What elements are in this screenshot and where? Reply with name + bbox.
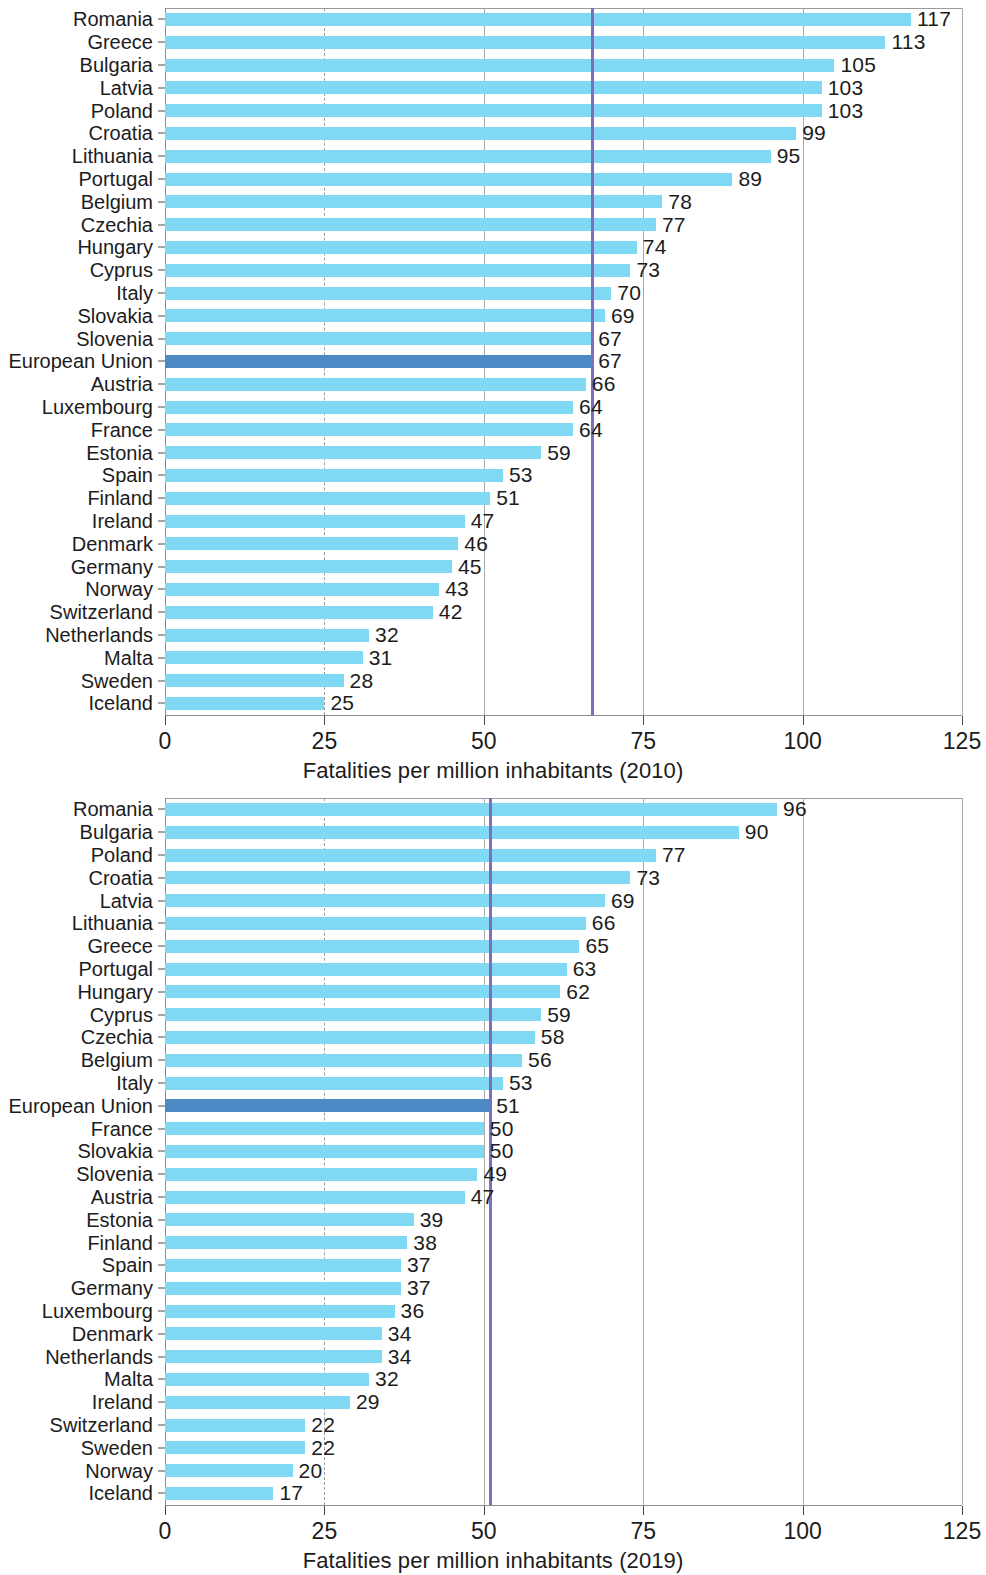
bar: [165, 1327, 382, 1340]
y-tick-label-czechia: Czechia: [81, 1027, 153, 1047]
y-tick-mark: [158, 1105, 165, 1106]
y-tick-mark: [158, 201, 165, 202]
y-tick-label-finland: Finland: [87, 1233, 153, 1253]
bar-value-label: 69: [611, 889, 635, 913]
bar: [165, 1282, 401, 1295]
bar: [165, 287, 611, 300]
bar-row: 36: [165, 1305, 962, 1318]
x-tick-mark-50: [484, 716, 485, 725]
x-tick-label-25: 25: [312, 728, 338, 755]
y-tick-mark: [158, 1493, 165, 1494]
bar-row: 22: [165, 1441, 962, 1454]
bar: [165, 583, 439, 596]
plot-top-border: [165, 8, 962, 9]
bar-row: 96: [165, 803, 962, 816]
y-tick-mark: [158, 338, 165, 339]
bar: [165, 537, 458, 550]
bar-row: 50: [165, 1122, 962, 1135]
y-tick-mark: [158, 1425, 165, 1426]
y-tick-mark: [158, 1060, 165, 1061]
plot-area-2019: 9690777369666563625958565351505049473938…: [165, 798, 962, 1505]
y-tick-mark: [158, 1014, 165, 1015]
y-tick-label-belgium: Belgium: [81, 192, 153, 212]
y-tick-mark: [158, 110, 165, 111]
bar-value-label: 103: [828, 99, 864, 123]
y-tick-mark: [158, 832, 165, 833]
bar: [165, 1305, 395, 1318]
y-tick-label-european-union: European Union: [8, 351, 153, 371]
y-tick-mark: [158, 1174, 165, 1175]
y-tick-label-hungary: Hungary: [77, 982, 153, 1002]
bar: [165, 1487, 273, 1500]
plot-area-2010: 1171131051031039995897877747370696767666…: [165, 8, 962, 715]
y-tick-mark: [158, 224, 165, 225]
bar-value-label: 28: [350, 669, 374, 693]
bar: [165, 803, 777, 816]
x-tick-label-0: 0: [159, 1518, 172, 1545]
y-tick-label-slovakia: Slovakia: [77, 306, 153, 326]
bar-row: 63: [165, 963, 962, 976]
y-tick-mark: [158, 42, 165, 43]
bar-row: 113: [165, 36, 962, 49]
bar: [165, 378, 586, 391]
bar-value-label: 17: [279, 1481, 303, 1505]
y-tick-label-iceland: Iceland: [89, 693, 154, 713]
y-tick-mark: [158, 87, 165, 88]
y-tick-label-lithuania: Lithuania: [72, 913, 153, 933]
bar-value-label: 69: [611, 304, 635, 328]
x-tick-label-100: 100: [783, 728, 821, 755]
bar-row: 77: [165, 218, 962, 231]
bar-row: 89: [165, 173, 962, 186]
bar-row: 50: [165, 1145, 962, 1158]
y-tick-label-ireland: Ireland: [92, 511, 153, 531]
bar: [165, 963, 567, 976]
bar-row: 59: [165, 446, 962, 459]
bar-row: 42: [165, 606, 962, 619]
bar: [165, 917, 586, 930]
bar-row: 29: [165, 1396, 962, 1409]
bar-row: 58: [165, 1031, 962, 1044]
y-tick-label-cyprus: Cyprus: [90, 1005, 153, 1025]
x-tick-label-50: 50: [471, 728, 497, 755]
y-tick-mark: [158, 270, 165, 271]
y-tick-mark: [158, 1356, 165, 1357]
bar-value-label: 95: [777, 144, 801, 168]
bar-row: 39: [165, 1213, 962, 1226]
y-tick-mark: [158, 429, 165, 430]
bar: [165, 1464, 293, 1477]
y-tick-mark: [158, 1083, 165, 1084]
y-tick-mark: [158, 635, 165, 636]
bar: [165, 59, 834, 72]
y-tick-label-sweden: Sweden: [81, 1438, 153, 1458]
y-tick-label-luxembourg: Luxembourg: [42, 1301, 153, 1321]
bar: [165, 1008, 541, 1021]
y-tick-label-slovenia: Slovenia: [76, 329, 153, 349]
y-tick-mark: [158, 1128, 165, 1129]
y-tick-label-slovenia: Slovenia: [76, 1164, 153, 1184]
y-tick-label-hungary: Hungary: [77, 237, 153, 257]
y-tick-label-european-union: European Union: [8, 1096, 153, 1116]
y-tick-label-norway: Norway: [85, 1461, 153, 1481]
bar: [165, 1350, 382, 1363]
bar-value-label: 53: [509, 463, 533, 487]
bar-value-label: 36: [401, 1299, 425, 1323]
bar-row: 103: [165, 104, 962, 117]
bar: [165, 606, 433, 619]
x-tick-mark-75: [643, 1506, 644, 1515]
bar-value-label: 59: [547, 441, 571, 465]
y-tick-mark: [158, 657, 165, 658]
y-tick-label-greece: Greece: [87, 936, 153, 956]
bar-value-label: 49: [483, 1162, 507, 1186]
bar-value-label: 58: [541, 1025, 565, 1049]
y-tick-label-latvia: Latvia: [100, 78, 153, 98]
y-tick-mark: [158, 1037, 165, 1038]
x-tick-mark-125: [962, 716, 963, 725]
y-tick-mark: [158, 877, 165, 878]
bar: [165, 469, 503, 482]
bar-row: 47: [165, 515, 962, 528]
figure-root: RomaniaGreeceBulgariaLatviaPolandCroatia…: [0, 0, 986, 1575]
y-tick-mark: [158, 946, 165, 947]
bar-value-label: 117: [917, 7, 951, 31]
bar-row: 20: [165, 1464, 962, 1477]
bar-value-label: 32: [375, 623, 399, 647]
